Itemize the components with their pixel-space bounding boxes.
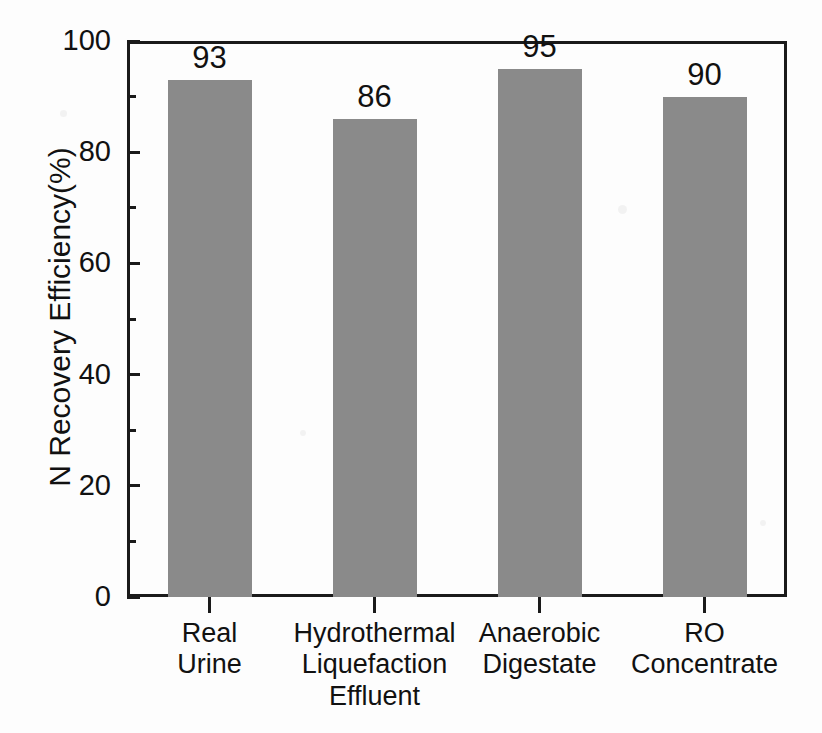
x-axis-category-label: ROConcentrate [595,618,815,681]
y-axis-major-tick [127,373,140,376]
y-axis-minor-tick [127,206,136,209]
scan-speckle [760,520,766,526]
category-label-line: RO [595,618,815,649]
x-axis-tick [538,597,541,613]
category-label-line: Concentrate [595,649,815,680]
bar-value-label: 95 [480,31,600,62]
y-axis-major-tick [127,484,140,487]
category-label-line: Effluent [265,681,485,712]
x-axis-tick [373,597,376,613]
y-axis-tick-label: 100 [0,26,111,55]
bar-value-label: 86 [315,81,435,112]
scan-speckle [60,110,67,117]
bar-value-label: 93 [150,42,270,73]
bar [168,80,252,597]
x-axis-tick [208,597,211,613]
y-axis-major-tick [127,151,140,154]
scan-speckle [300,430,306,436]
bar [333,119,417,597]
y-axis-tick-label: 20 [0,471,111,500]
bar [663,97,747,597]
bar-value-label: 90 [645,59,765,90]
y-axis-tick-label: 0 [0,582,111,611]
y-axis-minor-tick [127,429,136,432]
y-axis-tick-label: 40 [0,360,111,389]
y-axis-major-tick [127,262,140,265]
scan-speckle [618,205,627,214]
y-axis-major-tick [127,596,140,599]
bar-chart-figure: N Recovery Efficiency(%) 020406080100 93… [0,0,822,733]
y-axis-minor-tick [127,540,136,543]
y-axis-minor-tick [127,318,136,321]
y-axis-minor-tick [127,95,136,98]
x-axis-tick [703,597,706,613]
bar [498,69,582,597]
y-axis-major-tick [127,40,140,43]
y-axis-tick-label: 80 [0,137,111,166]
y-axis-tick-label: 60 [0,248,111,277]
